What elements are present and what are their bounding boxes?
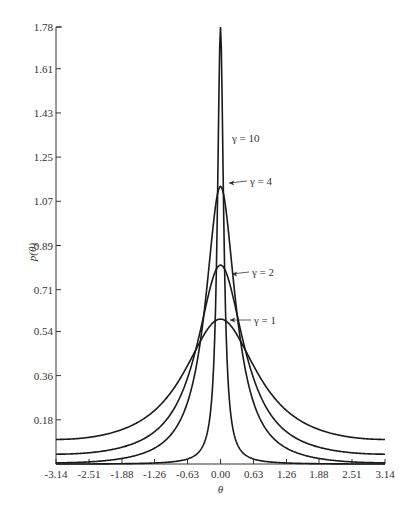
x-tick-label: -1.88 <box>111 468 134 480</box>
x-tick-label: -0.63 <box>176 468 199 480</box>
x-tick-label: 1.26 <box>277 468 297 480</box>
x-axis-label: θ <box>218 483 224 495</box>
y-tick-label: 0.71 <box>34 284 53 296</box>
curve-label: γ = 1 <box>253 314 276 326</box>
density-curve-3 <box>56 187 385 463</box>
x-tick-label: 0.63 <box>244 468 264 480</box>
y-tick-label: 1.25 <box>34 151 54 163</box>
y-tick-label: 1.78 <box>34 21 54 33</box>
density-curve-2 <box>56 265 385 454</box>
curve-label: γ = 4 <box>249 175 273 187</box>
x-tick-label: 3.14 <box>375 468 395 480</box>
y-tick-label: 0.18 <box>34 414 54 426</box>
y-tick-label: 1.07 <box>34 195 54 207</box>
curve-labels: γ = 10γ = 4γ = 2γ = 1 <box>229 132 276 326</box>
density-curve-1 <box>56 319 385 439</box>
y-tick-label: 1.61 <box>34 63 53 75</box>
y-tick-label: 0.54 <box>34 325 54 337</box>
x-tick-label: 0.00 <box>211 468 231 480</box>
x-tick-label: -1.26 <box>143 468 166 480</box>
curve-label: γ = 10 <box>231 132 260 144</box>
y-axis-label: p(θ) <box>26 243 39 263</box>
x-tick-label: 2.51 <box>342 468 361 480</box>
curve-label: γ = 2 <box>251 266 274 278</box>
x-tick-label: -3.14 <box>45 468 68 480</box>
density-chart: 0.180.360.540.710.891.071.251.431.611.78… <box>0 0 415 511</box>
y-tick-label: 0.36 <box>34 370 54 382</box>
x-tick-label: 1.88 <box>309 468 329 480</box>
arrowhead-icon <box>229 181 234 186</box>
density-curve-4 <box>56 27 385 464</box>
curves <box>56 27 385 464</box>
y-tick-label: 1.43 <box>34 107 54 119</box>
x-tick-label: -2.51 <box>78 468 101 480</box>
